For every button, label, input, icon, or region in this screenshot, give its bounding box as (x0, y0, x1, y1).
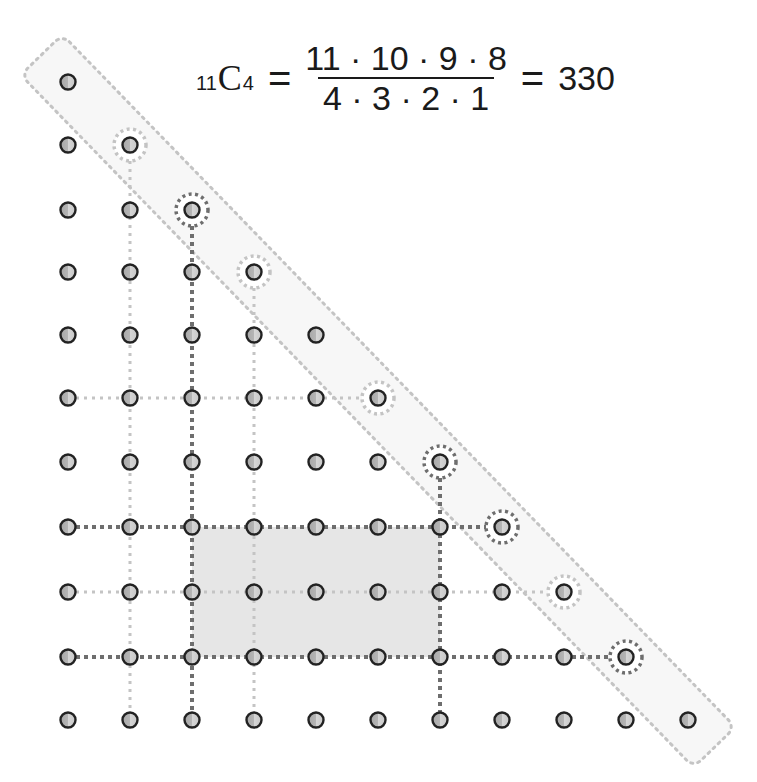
combination-formula: 11 C 4 = 11 · 10 · 9 · 8 4 · 3 · 2 · 1 =… (196, 38, 615, 118)
grid-point (309, 520, 324, 535)
grid-point (371, 520, 386, 535)
grid-point (371, 585, 386, 600)
grid-point (61, 265, 76, 280)
grid-point (619, 713, 634, 728)
grid-point (309, 455, 324, 470)
denominator: 4 · 3 · 2 · 1 (323, 79, 489, 117)
grid-point (61, 138, 76, 153)
equals-sign: = (268, 58, 291, 98)
equals-sign-2: = (521, 58, 544, 98)
grid-point (185, 328, 200, 343)
grid-point (371, 455, 386, 470)
grid-point (61, 391, 76, 406)
grid-point (495, 650, 510, 665)
grid-point (185, 265, 200, 280)
grid-point (433, 713, 448, 728)
grid-point (557, 585, 572, 600)
grid-point (309, 713, 324, 728)
grid-point (123, 328, 138, 343)
grid-point (309, 585, 324, 600)
grid-point (61, 203, 76, 218)
grid-point (495, 520, 510, 535)
grid-point (619, 650, 634, 665)
grid-point (247, 265, 262, 280)
grid-point (61, 328, 76, 343)
grid-point (61, 650, 76, 665)
result-value: 330 (558, 59, 615, 98)
grid-point (61, 585, 76, 600)
grid-point (433, 455, 448, 470)
grid-point (123, 265, 138, 280)
grid-point (371, 650, 386, 665)
grid-point (433, 650, 448, 665)
grid-point (185, 713, 200, 728)
grid-point (495, 713, 510, 728)
grid-point (247, 650, 262, 665)
combination-symbol: 11 C 4 (196, 57, 254, 99)
grid-point (123, 520, 138, 535)
n-value: 11 (196, 72, 217, 95)
grid-point (433, 520, 448, 535)
grid-point (123, 138, 138, 153)
grid-point (371, 713, 386, 728)
grid-point (371, 391, 386, 406)
grid-point (185, 391, 200, 406)
grid-point (557, 713, 572, 728)
grid-point (123, 585, 138, 600)
grid-point (185, 585, 200, 600)
grid-point (123, 713, 138, 728)
grid-point (185, 520, 200, 535)
grid-point (61, 455, 76, 470)
c-symbol: C (218, 57, 242, 99)
grid-point (123, 203, 138, 218)
grid-point (123, 455, 138, 470)
grid-point (123, 391, 138, 406)
r-value: 4 (243, 72, 254, 95)
fraction: 11 · 10 · 9 · 8 4 · 3 · 2 · 1 (305, 39, 507, 117)
grid-point (309, 650, 324, 665)
grid-point (185, 650, 200, 665)
grid-point (247, 455, 262, 470)
grid-point (557, 650, 572, 665)
grid-point (247, 328, 262, 343)
grid-point (123, 650, 138, 665)
grid-point (495, 585, 510, 600)
numerator: 11 · 10 · 9 · 8 (305, 39, 507, 77)
grid-point (185, 203, 200, 218)
grid-point (61, 520, 76, 535)
grid-point (247, 585, 262, 600)
grid-point (433, 585, 448, 600)
grid-point (185, 455, 200, 470)
grid-point (247, 520, 262, 535)
grid-point (309, 391, 324, 406)
grid-point (681, 713, 696, 728)
grid-point (247, 391, 262, 406)
grid-point (61, 713, 76, 728)
grid-point (61, 75, 76, 90)
grid-point (247, 713, 262, 728)
grid-point (309, 328, 324, 343)
